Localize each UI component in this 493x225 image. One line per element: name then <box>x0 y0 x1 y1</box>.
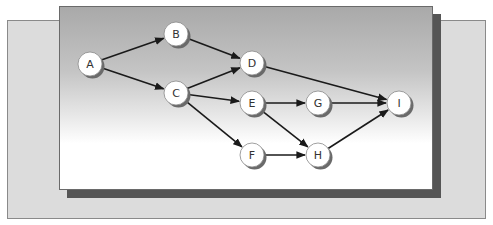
edge-b-d <box>187 38 240 58</box>
node-f: F <box>240 143 267 170</box>
node-b: B <box>164 22 191 49</box>
node-label: G <box>314 97 323 110</box>
edge-c-f <box>185 101 242 147</box>
node-label: B <box>172 28 180 41</box>
edge-h-i <box>328 110 388 148</box>
edge-e-h <box>261 110 307 147</box>
node-c: C <box>164 81 191 108</box>
edge-a-b <box>101 38 163 60</box>
node-a: A <box>78 52 105 79</box>
edge-a-c <box>101 68 163 89</box>
nodes-group: ABCDEFGHI <box>78 22 414 170</box>
edge-c-d <box>187 68 240 89</box>
node-label: F <box>249 149 255 162</box>
node-label: E <box>249 97 256 110</box>
node-h: H <box>306 143 333 170</box>
node-e: E <box>240 91 267 118</box>
node-d: D <box>240 51 267 78</box>
node-label: C <box>172 87 180 100</box>
edge-c-e <box>188 95 239 102</box>
node-label: H <box>314 149 322 162</box>
node-label: D <box>248 57 256 70</box>
network-diagram: ABCDEFGHI <box>0 0 493 225</box>
node-g: G <box>306 91 333 118</box>
node-i: I <box>387 91 414 118</box>
node-label: I <box>397 97 400 110</box>
node-label: A <box>86 58 94 71</box>
